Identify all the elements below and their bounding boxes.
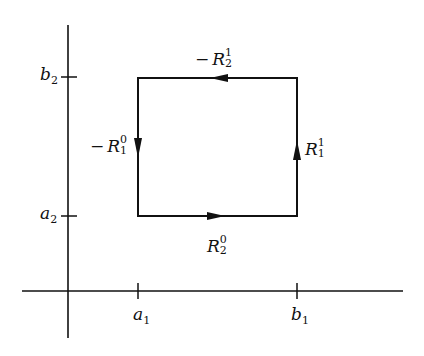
arrow-bottom-right-icon	[207, 212, 225, 220]
label-b1: b1	[291, 306, 309, 323]
label-bottom-edge: R02	[207, 236, 227, 258]
arrow-right-up-icon	[293, 140, 301, 160]
diagram-canvas: b2 a2 a1 b1 −R12 −R01 R11 R02	[0, 0, 424, 356]
label-a1: a1	[133, 306, 150, 323]
boundary-rectangle	[138, 78, 297, 216]
arrow-top-left-icon	[210, 74, 228, 82]
arrow-left-down-icon	[134, 138, 142, 158]
label-b2: b2	[40, 66, 58, 83]
label-a2: a2	[40, 205, 57, 222]
label-left-edge: −R01	[90, 136, 127, 158]
label-right-edge: R11	[305, 139, 325, 161]
label-top-edge: −R12	[195, 49, 232, 71]
